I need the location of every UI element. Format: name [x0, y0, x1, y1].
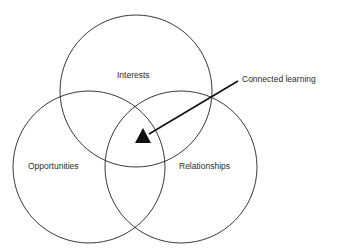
label-opportunities: Opportunities — [28, 162, 79, 171]
label-relationships: Relationships — [179, 162, 230, 171]
connected-learning-triangle-icon — [135, 128, 151, 143]
callout-arrow-line — [149, 81, 238, 134]
label-interests: Interests — [117, 71, 150, 80]
label-connected-learning: Connected learning — [242, 75, 316, 84]
venn-diagram — [0, 0, 346, 251]
